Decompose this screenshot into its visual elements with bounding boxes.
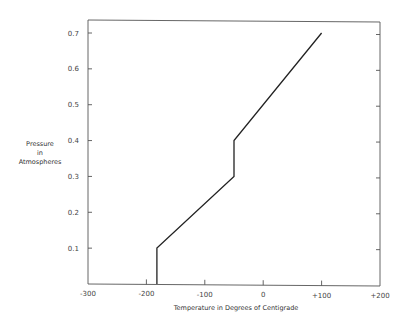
y-axis-ticks: 0.10.20.30.40.50.60.7 — [68, 30, 380, 253]
x-tick-label: 0 — [261, 291, 265, 299]
x-axis-title: Temperature in Degrees of Centigrade — [173, 304, 299, 312]
bottom-axis — [88, 284, 380, 286]
data-line — [157, 33, 322, 284]
y-tick-label: 0.5 — [68, 101, 79, 109]
y-tick-label: 0.7 — [68, 30, 79, 38]
y-tick-label: 0.1 — [68, 245, 79, 253]
top-border — [88, 20, 380, 22]
y-tick-label: 0.3 — [68, 173, 79, 181]
x-tick-label: -100 — [197, 291, 213, 299]
x-tick-label: +100 — [312, 292, 331, 300]
y-tick-label: 0.2 — [68, 209, 79, 217]
y-tick-label: 0.4 — [68, 137, 80, 145]
x-tick-label: -200 — [138, 290, 154, 298]
x-axis-ticks: -300-200-1000+100+200 — [80, 279, 390, 300]
y-tick-label: 0.6 — [68, 65, 80, 73]
chart-svg: 0.10.20.30.40.50.60.7 -300-200-1000+100+… — [0, 0, 404, 331]
x-tick-label: -300 — [80, 290, 96, 298]
x-tick-label: +200 — [370, 292, 389, 300]
